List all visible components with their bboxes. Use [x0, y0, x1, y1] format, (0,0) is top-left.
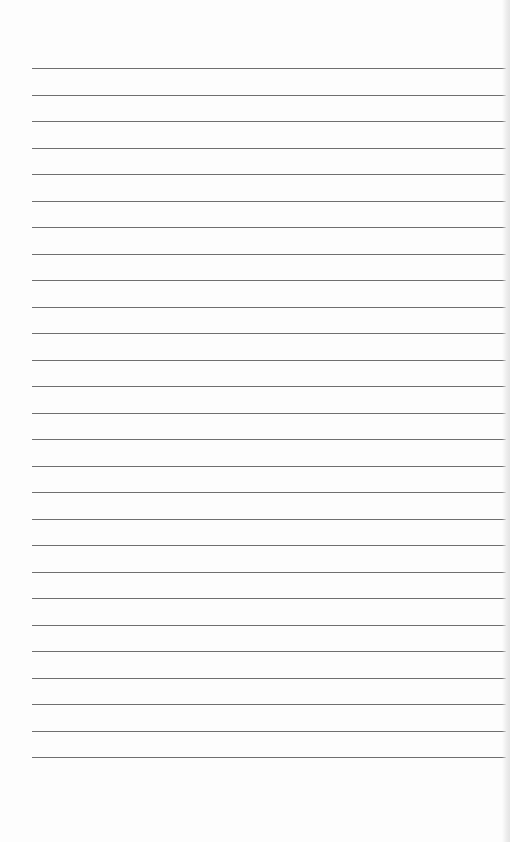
ruled-line	[32, 333, 506, 334]
ruled-line	[32, 519, 506, 520]
ruled-line	[32, 439, 506, 440]
ruled-line	[32, 121, 506, 122]
ruled-line	[32, 254, 506, 255]
ruled-line	[32, 704, 506, 705]
ruled-line	[32, 731, 506, 732]
ruled-line	[32, 598, 506, 599]
ruled-line	[32, 68, 506, 69]
ruled-line	[32, 572, 506, 573]
ruled-line	[32, 492, 506, 493]
ruled-line	[32, 360, 506, 361]
ruled-line	[32, 545, 506, 546]
ruled-line	[32, 651, 506, 652]
ruled-line	[32, 227, 506, 228]
ruled-line	[32, 148, 506, 149]
ruled-line	[32, 201, 506, 202]
ruled-line	[32, 174, 506, 175]
ruled-line	[32, 95, 506, 96]
ruled-line	[32, 757, 506, 758]
lined-paper-page	[0, 0, 510, 842]
ruled-line	[32, 466, 506, 467]
page-edge-shadow	[502, 0, 510, 842]
ruled-line	[32, 678, 506, 679]
ruled-line	[32, 307, 506, 308]
ruled-line	[32, 280, 506, 281]
ruled-line	[32, 625, 506, 626]
ruled-line	[32, 386, 506, 387]
ruled-line	[32, 413, 506, 414]
